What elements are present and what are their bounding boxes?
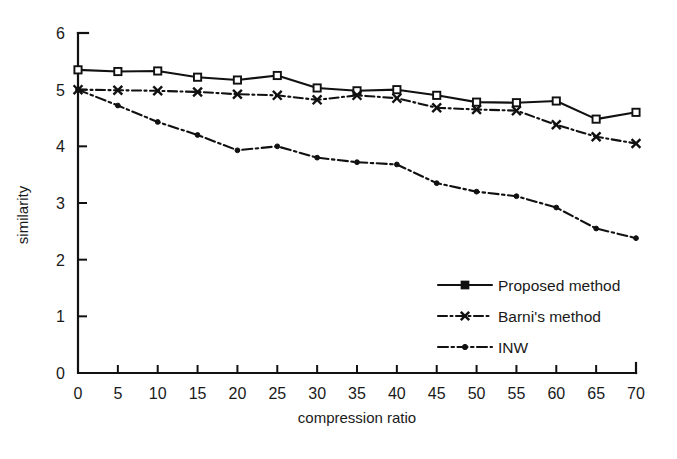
x-tick-label: 15 — [189, 385, 207, 402]
x-tick-label: 55 — [508, 385, 526, 402]
data-point-marker — [392, 94, 401, 103]
data-point-marker — [195, 133, 200, 138]
data-point-marker — [154, 67, 161, 74]
chart-figure: 0123456 0510152025303540455055606570 com… — [0, 0, 677, 459]
legend-marker-square-icon — [462, 282, 469, 289]
x-tick-label: 25 — [268, 385, 286, 402]
data-point-marker — [433, 92, 440, 99]
legend-item: Proposed method — [438, 277, 620, 294]
legend-item: Barni's method — [438, 308, 601, 325]
data-point-marker — [314, 84, 321, 91]
data-point-marker — [355, 160, 360, 165]
data-point-marker — [74, 66, 81, 73]
series-inw — [76, 87, 639, 240]
data-point-marker — [554, 205, 559, 210]
data-point-marker — [315, 155, 320, 160]
x-tick-label: 35 — [348, 385, 366, 402]
y-axis-title: similarity — [14, 185, 31, 244]
x-tick-label: 65 — [587, 385, 605, 402]
legend-item: INW — [438, 339, 529, 356]
similarity-vs-compression-ratio-chart: 0123456 0510152025303540455055606570 com… — [0, 0, 677, 459]
y-tick-label: 6 — [56, 25, 65, 42]
data-point-marker — [473, 99, 480, 106]
data-point-marker — [234, 76, 241, 83]
data-point-marker — [393, 86, 400, 93]
x-tick-label: 50 — [468, 385, 486, 402]
data-point-marker — [634, 236, 639, 241]
x-tick-label: 10 — [149, 385, 167, 402]
x-axis-title: compression ratio — [298, 409, 416, 426]
x-tick-label: 40 — [388, 385, 406, 402]
data-point-marker — [235, 148, 240, 153]
x-axis-ticks — [118, 365, 636, 373]
y-tick-label: 0 — [56, 365, 65, 382]
data-point-marker — [553, 97, 560, 104]
data-point-marker — [514, 194, 519, 199]
y-tick-label: 4 — [56, 138, 65, 155]
x-tick-label: 30 — [308, 385, 326, 402]
data-point-marker — [274, 72, 281, 79]
legend-label: Proposed method — [498, 277, 620, 294]
data-point-marker — [114, 68, 121, 75]
data-point-marker — [593, 116, 600, 123]
data-point-marker — [434, 181, 439, 186]
chart-legend: Proposed methodBarni's methodINW — [438, 277, 620, 356]
y-tick-label: 2 — [56, 252, 65, 269]
y-tick-label: 1 — [56, 308, 65, 325]
series-barni-s-method — [74, 85, 641, 148]
data-point-marker — [194, 74, 201, 81]
x-tick-label: 0 — [74, 385, 83, 402]
data-point-marker — [76, 87, 81, 92]
y-axis-tick-labels: 0123456 — [56, 25, 65, 382]
data-point-marker — [513, 99, 520, 106]
y-axis-ticks — [78, 33, 87, 316]
legend-label: INW — [498, 339, 529, 356]
legend-label: Barni's method — [498, 308, 601, 325]
data-point-marker — [474, 189, 479, 194]
x-tick-label: 70 — [627, 385, 645, 402]
x-tick-label: 20 — [229, 385, 247, 402]
y-tick-label: 3 — [56, 195, 65, 212]
x-tick-label: 5 — [113, 385, 122, 402]
data-point-marker — [115, 103, 120, 108]
data-point-marker — [594, 226, 599, 231]
x-tick-label: 45 — [428, 385, 446, 402]
data-point-marker — [394, 162, 399, 167]
legend-marker-dot-icon — [462, 344, 467, 349]
data-point-marker — [155, 120, 160, 125]
data-point-marker — [275, 144, 280, 149]
x-tick-label: 60 — [547, 385, 565, 402]
data-series-layer — [74, 66, 641, 240]
data-point-marker — [632, 109, 639, 116]
x-axis-tick-labels: 0510152025303540455055606570 — [74, 385, 645, 402]
y-tick-label: 5 — [56, 82, 65, 99]
